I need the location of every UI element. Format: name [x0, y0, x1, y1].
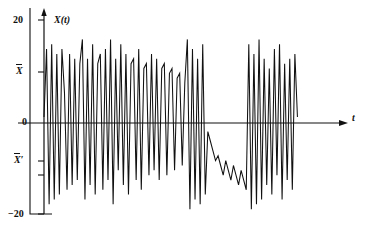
y-mean-lower-symbol: X	[14, 154, 21, 165]
y-mean-upper-symbol: X	[16, 65, 23, 76]
y-tick-label-mean-upper: X	[16, 65, 23, 76]
y-tick-label-mean-lower: X′	[14, 154, 23, 165]
y-axis-ticks	[38, 20, 44, 214]
chart-plot-area	[0, 0, 374, 236]
chart-figure: 20 X 0 X′ −20 X(t) t	[0, 0, 374, 236]
y-tick-label-zero: 0	[22, 116, 27, 127]
x-axis-title: t	[352, 112, 355, 123]
y-tick-label-bottom: −20	[8, 208, 24, 219]
y-axis-arrow-icon	[41, 8, 46, 16]
y-axis-title: X(t)	[54, 14, 70, 25]
y-tick-label-top: 20	[13, 14, 23, 25]
y-mean-lower-prime: ′	[21, 154, 24, 165]
signal-waveform	[44, 39, 297, 209]
x-axis-arrow-icon	[339, 120, 348, 126]
